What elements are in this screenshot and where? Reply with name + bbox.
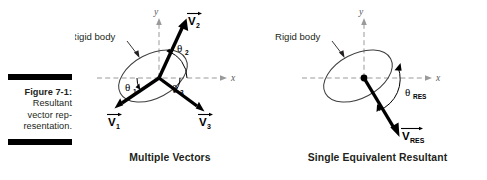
diagram-single-equivalent-resultant: y x Rigid body θ RES V RES xyxy=(268,0,487,152)
panel-title-multiple-vectors: Multiple Vectors xyxy=(75,152,265,163)
figure-caption-text: Figure 7-1: Resultant vector rep- resent… xyxy=(8,87,72,133)
angle-arc-theta-res xyxy=(379,67,400,111)
vector-vres-overbar-arrowhead xyxy=(419,127,423,131)
figure-caption-block: Figure 7-1: Resultant vector rep- resent… xyxy=(8,74,72,145)
diagram-multiple-vectors: y x Rigid body θ 2 θ 3 θ xyxy=(75,0,265,152)
vector-vres-subscript: RES xyxy=(410,137,425,144)
rigid-body-label: Rigid body xyxy=(275,31,321,42)
panel-multiple-vectors: y x Rigid body θ 2 θ 3 θ xyxy=(75,0,265,180)
figure-caption-line-2: vector rep- xyxy=(8,110,72,121)
figure-caption-line-1: Resultant xyxy=(8,98,72,109)
vector-v1-label: V xyxy=(108,116,116,128)
y-axis-arrowhead xyxy=(156,18,162,25)
panel-single-equivalent-resultant: y x Rigid body θ RES V RES xyxy=(268,0,487,180)
angle-arc-theta-res-arrowhead-top xyxy=(395,63,402,71)
x-axis-arrowhead xyxy=(425,75,432,81)
rigid-body-label: Rigid body xyxy=(75,31,116,42)
vector-v1-subscript: 1 xyxy=(116,123,120,130)
angle-label-theta-res: θ xyxy=(405,86,410,98)
vector-v3-label: V xyxy=(199,116,207,128)
caption-rule-bottom xyxy=(8,139,72,145)
x-axis-arrowhead xyxy=(220,75,227,81)
vector-v2-label: V xyxy=(188,15,196,27)
panel-title-single-equivalent-resultant: Single Equivalent Resultant xyxy=(268,152,487,163)
vector-v3-arrowhead xyxy=(196,102,205,112)
rigid-body-ellipse xyxy=(315,39,401,113)
angle-label-theta-res-subscript: RES xyxy=(413,93,427,100)
y-axis-label: y xyxy=(358,7,364,17)
angle-label-theta2: θ xyxy=(177,42,182,54)
vector-v3-subscript: 3 xyxy=(207,123,211,130)
vector-v3-line xyxy=(159,78,197,106)
vector-v1-overbar-arrowhead xyxy=(118,113,122,117)
angle-label-theta2-subscript: 2 xyxy=(185,49,189,56)
vector-v3-overbar-arrowhead xyxy=(209,113,213,117)
figure-number-label: Figure 7-1: xyxy=(8,87,72,98)
x-axis-label: x xyxy=(230,73,236,83)
angle-label-theta1: θ xyxy=(125,81,130,93)
caption-rule-top xyxy=(8,74,72,80)
vector-vres-line xyxy=(364,78,394,128)
vector-v1-arrowhead xyxy=(115,98,124,108)
vector-v2-overbar-arrowhead xyxy=(198,12,202,16)
y-axis-arrowhead xyxy=(361,18,367,25)
vector-vres-label: V xyxy=(402,130,410,142)
y-axis-label: y xyxy=(153,7,159,17)
figure-7-1: Figure 7-1: Resultant vector rep- resent… xyxy=(0,0,487,180)
vector-v2-subscript: 2 xyxy=(196,22,200,29)
figure-caption-line-3: resentation. xyxy=(8,121,72,132)
x-axis-label: x xyxy=(435,73,441,83)
